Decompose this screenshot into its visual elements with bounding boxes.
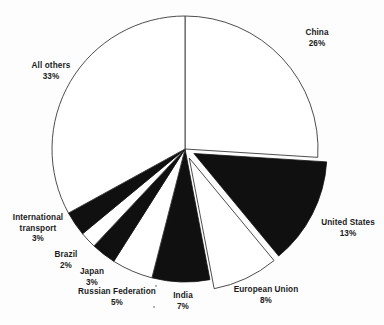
slice-label-united-states-name: United States bbox=[321, 218, 375, 227]
slice-label-international-transport: International transport 3% bbox=[1, 213, 75, 245]
slice-label-international-transport-pct: 3% bbox=[1, 234, 75, 245]
slice-label-all-others: All others 33% bbox=[18, 61, 84, 82]
slice-label-european-union: European Union 8% bbox=[224, 285, 308, 306]
slice-label-european-union-name: European Union bbox=[234, 285, 299, 294]
slice-label-china-name: China bbox=[305, 28, 328, 37]
pie-slices-group bbox=[52, 16, 327, 289]
slice-label-russian-federation: Russian Federation 5% bbox=[62, 287, 172, 308]
slice-label-united-states: United States 13% bbox=[312, 218, 384, 239]
slice-label-brazil-name: Brazil bbox=[55, 250, 78, 259]
slice-label-all-others-pct: 33% bbox=[18, 72, 84, 83]
slice-label-china: China 26% bbox=[284, 28, 350, 49]
slice-label-japan-pct: 3% bbox=[72, 278, 112, 289]
pie-chart: China 26% United States 13% European Uni… bbox=[0, 0, 384, 325]
slice-label-brazil-pct: 2% bbox=[46, 261, 86, 272]
slice-label-european-union-pct: 8% bbox=[224, 296, 308, 307]
slice-label-united-states-pct: 13% bbox=[312, 229, 384, 240]
slice-label-international-transport-line1: International bbox=[13, 213, 63, 222]
slice-label-russian-federation-name: Russian Federation bbox=[78, 287, 156, 296]
slice-label-china-pct: 26% bbox=[284, 39, 350, 50]
slice-label-brazil: Brazil 2% bbox=[46, 250, 86, 271]
slice-label-russian-federation-pct: 5% bbox=[62, 298, 172, 309]
slice-label-all-others-name: All others bbox=[32, 61, 71, 70]
slice-label-india-name: India bbox=[173, 291, 193, 300]
slice-label-international-transport-line2: transport bbox=[1, 224, 75, 235]
